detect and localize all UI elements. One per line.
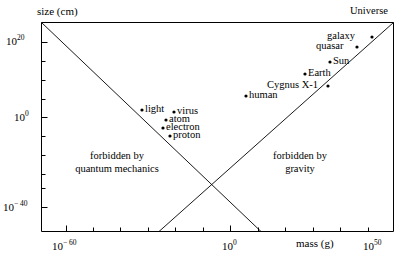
x-axis-ticks [67, 226, 369, 232]
annotation-gravity-line2: gravity [285, 163, 315, 174]
x-tick-label-1e0: 100 [222, 239, 237, 252]
point-label-light: light [145, 104, 164, 115]
y-tick-label-1e-40: 10− 40 [3, 200, 28, 213]
dot-human [244, 94, 247, 97]
annotation-qm-line1: forbidden by [90, 150, 144, 161]
dot-galaxy [370, 35, 373, 38]
size-vs-mass-chart: size (cm) mass (g) 1020 100 10− 40 10− 6… [0, 0, 417, 264]
dot-quasar [355, 45, 358, 48]
dot-electron [161, 126, 164, 129]
x-tick-label-1e50: 1050 [363, 239, 382, 252]
quantum-limit-line [42, 23, 262, 232]
y-tick-label-1e0: 100 [14, 110, 29, 123]
dot-sun [328, 60, 331, 63]
point-label-human: human [249, 90, 278, 101]
plot-frame [42, 23, 394, 232]
y-axis-ticks [42, 43, 48, 208]
dot-proton [168, 134, 171, 137]
annotation-gravity-line1: forbidden by [273, 150, 327, 161]
point-label-galaxy: galaxy [327, 31, 355, 42]
dot-light [140, 108, 143, 111]
y-tick-label-1e20: 1020 [6, 34, 25, 47]
point-label-earth: Earth [308, 68, 331, 79]
dot-cygnus [326, 84, 329, 87]
x-tick-label-1e-60: 10− 60 [52, 239, 77, 252]
dot-earth [303, 72, 306, 75]
point-label-quasar: quasar [316, 41, 343, 52]
y-axis-title: size (cm) [37, 6, 78, 17]
x-axis-title: mass (g) [296, 238, 334, 249]
point-label-sun: Sun [333, 56, 349, 67]
point-label-proton: proton [173, 130, 200, 141]
point-label-universe: Universe [350, 6, 388, 17]
annotation-forbidden-by-gravity: forbidden by gravity [250, 149, 350, 175]
point-label-cygnus-x-1: Cygnus X-1 [267, 80, 318, 91]
annotation-qm-line2: quantum mechanics [75, 163, 159, 174]
annotation-forbidden-by-quantum-mechanics: forbidden by quantum mechanics [58, 149, 176, 175]
